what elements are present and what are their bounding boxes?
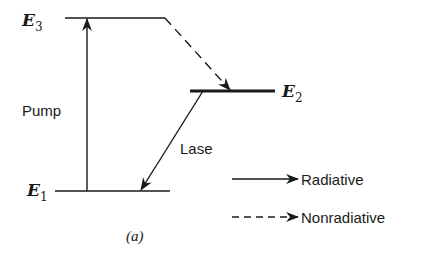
three-level-laser-diagram: E3 E2 E1 Pump Lase Radiative Nonradiativ… [0,0,445,256]
e2-label: E2 [281,81,303,105]
figure-caption: (a) [126,228,144,245]
energy-level-e1: E1 [26,180,170,204]
pump-label: Pump [22,102,61,119]
legend-radiative-label: Radiative [301,171,364,188]
legend-item-nonradiative: Nonradiative [232,209,385,226]
nonradiative-transition [165,18,230,90]
e3-label: E3 [21,10,43,34]
lase-label: Lase [180,140,213,157]
energy-level-e2: E2 [190,81,303,105]
legend: Radiative Nonradiative [232,171,385,226]
e1-label: E1 [26,180,48,204]
legend-item-radiative: Radiative [232,171,364,188]
pump-transition: Pump [22,19,87,191]
energy-level-e3: E3 [21,10,165,34]
legend-nonradiative-label: Nonradiative [301,209,385,226]
lase-transition: Lase [141,91,213,190]
